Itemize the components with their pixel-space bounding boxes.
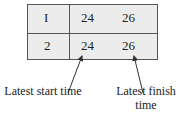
latest-finish-label: Latest finish time	[106, 84, 183, 112]
latest-start-label: Latest start time	[3, 84, 83, 98]
